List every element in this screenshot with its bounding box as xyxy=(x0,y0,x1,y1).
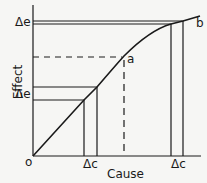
point-b-label: b xyxy=(196,17,204,29)
point-a-label: a xyxy=(127,53,134,65)
cause-effect-diagram: Δe Δe a b o Δc Δc Cause Effect xyxy=(0,0,207,183)
origin-label: o xyxy=(25,156,32,168)
delta-c-lower-label: Δc xyxy=(83,158,98,170)
delta-e-upper-label: Δe xyxy=(15,16,31,28)
delta-c-upper-label: Δc xyxy=(171,158,186,170)
cause-effect-curve xyxy=(33,16,200,156)
x-axis-label: Cause xyxy=(107,168,144,180)
y-axis-label: Effect xyxy=(11,62,25,102)
